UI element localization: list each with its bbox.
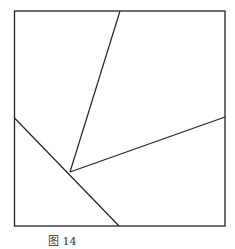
segment-to-right bbox=[70, 117, 225, 172]
outer-square bbox=[15, 11, 226, 226]
figure-diagram bbox=[0, 0, 235, 249]
segment-to-top bbox=[70, 11, 120, 172]
segment-left-to-bottom bbox=[15, 118, 120, 226]
figure-caption: 图 14 bbox=[48, 232, 77, 248]
